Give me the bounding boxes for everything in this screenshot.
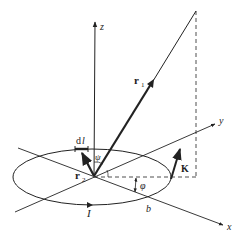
psi-label: ψ: [95, 152, 101, 162]
K-vector: [171, 149, 180, 179]
dl-label-l: l: [82, 135, 85, 146]
x-axis: [18, 148, 223, 225]
dl-label-d: d: [76, 135, 81, 146]
r1-label: r: [134, 74, 139, 86]
r2-subscript: 2: [82, 176, 86, 184]
phi-label: φ: [140, 180, 146, 191]
phi-angle-arrow: [135, 178, 136, 192]
r2-label: r: [75, 169, 80, 181]
r1-extension: [150, 11, 196, 86]
current-I-label: I: [86, 207, 92, 219]
y-axis-label: y: [218, 115, 224, 126]
x-axis-label: x: [226, 221, 232, 232]
r1-vector: [94, 84, 151, 176]
diagram-canvas: z y x r 1 r 2 d l ψ φ K b I: [0, 0, 242, 239]
K-label: K: [181, 163, 189, 174]
z-axis-label: z: [99, 21, 104, 32]
loop-diagram: z y x r 1 r 2 d l ψ φ K b I: [0, 0, 242, 239]
b-label: b: [146, 203, 151, 214]
r1-subscript: 1: [141, 81, 145, 89]
